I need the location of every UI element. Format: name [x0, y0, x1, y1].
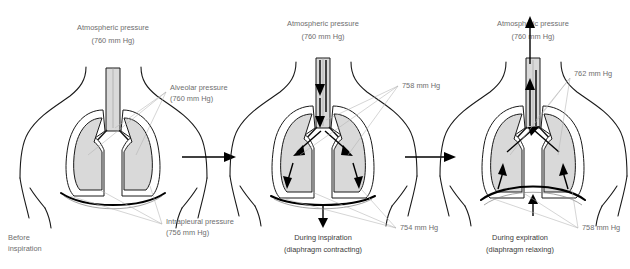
intrapleural-pressure-value: 758 mm Hg	[582, 223, 620, 232]
panel-caption-line2: inspiration	[8, 244, 42, 253]
intrapleural-pressure-label-line1: Intrapleural pressure	[166, 217, 234, 226]
panel-header-line2: (760 mm Hg)	[301, 32, 344, 41]
alveolar-pressure-value: 762 mm Hg	[574, 69, 612, 78]
panel-header-line2: (760 mm Hg)	[511, 32, 554, 41]
panel-caption-line2: (diaphragm contracting)	[284, 245, 362, 254]
panel-caption-line1: Before	[8, 233, 30, 242]
panel-header-line1: Atmospheric pressure	[287, 19, 359, 28]
panel-header-line2: (760 mm Hg)	[91, 36, 134, 45]
intrapleural-pressure-label-line2: (756 mm Hg)	[166, 228, 209, 237]
respiratory-pressure-diagram: Atmospheric pressure (760 mm Hg) Alveola…	[0, 0, 630, 269]
alveolar-pressure-label-line1: Alveolar pressure	[170, 83, 228, 92]
intrapleural-pressure-value: 754 mm Hg	[400, 223, 438, 232]
panel-caption-line1: During expiration	[492, 233, 548, 242]
panel-caption-line1: During inspiration	[294, 233, 352, 242]
alveolar-pressure-value: 758 mm Hg	[402, 81, 440, 90]
panel-header-line1: Atmospheric pressure	[77, 23, 149, 32]
alveolar-pressure-label-line2: (760 mm Hg)	[170, 94, 213, 103]
panel-caption-line2: (diaphragm relaxing)	[486, 245, 554, 254]
